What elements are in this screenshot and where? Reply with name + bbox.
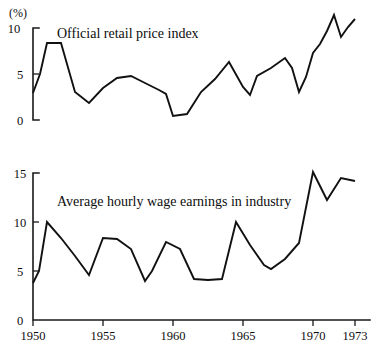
chart-canvas: (%) 10 5 0 Official retail price index 1… — [0, 0, 380, 344]
top-panel-title: Official retail price index — [57, 26, 199, 41]
bottom-panel: 15 10 5 0 Average hourly wage earnings i… — [14, 167, 370, 343]
top-y-label-0: 0 — [17, 114, 23, 128]
y-axis-unit-label: (%) — [9, 6, 27, 20]
top-y-label-10: 10 — [8, 22, 21, 36]
bottom-y-label-15: 15 — [14, 167, 27, 181]
chart-figure: (%) 10 5 0 Official retail price index 1… — [0, 0, 380, 344]
bottom-panel-title: Average hourly wage earnings in industry — [57, 194, 291, 209]
x-label-1950: 1950 — [21, 329, 46, 343]
top-panel: (%) 10 5 0 Official retail price index — [8, 6, 355, 128]
top-y-label-5: 5 — [17, 68, 23, 82]
bottom-series-line — [33, 172, 355, 283]
x-label-1960: 1960 — [161, 329, 186, 343]
x-label-1955: 1955 — [91, 329, 116, 343]
bottom-y-label-0: 0 — [17, 314, 23, 328]
x-label-1973: 1973 — [343, 329, 368, 343]
x-label-1970: 1970 — [301, 329, 326, 343]
x-label-1965: 1965 — [231, 329, 256, 343]
bottom-y-label-5: 5 — [17, 265, 23, 279]
bottom-y-label-10: 10 — [14, 216, 27, 230]
